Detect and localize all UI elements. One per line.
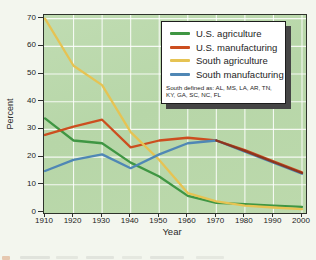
legend-item: U.S. manufacturing — [162, 41, 285, 55]
y-tick-label: 40 — [14, 96, 36, 105]
line-swatch-icon — [170, 73, 190, 76]
y-tick-label: 20 — [14, 151, 36, 160]
legend: U.S. agriculture U.S. manufacturing Sout… — [161, 21, 286, 104]
y-tick-label: 10 — [14, 179, 36, 188]
y-tick — [38, 17, 43, 18]
x-tick-label: 1970 — [201, 216, 229, 225]
x-tick-label: 1910 — [30, 216, 58, 225]
legend-label: South manufacturing — [196, 69, 284, 80]
legend-note-line2: KY, GA, SC, NC, FL — [166, 91, 282, 98]
cropped-caption-fragments — [0, 253, 316, 260]
legend-item: U.S. agriculture — [162, 27, 285, 41]
caption-fragment — [56, 256, 78, 259]
legend-note-line1: South defined as: AL, MS, LA, AR, TN, — [166, 84, 282, 91]
legend-note: South defined as: AL, MS, LA, AR, TN, KY… — [162, 81, 285, 99]
y-tick-label: 30 — [14, 123, 36, 132]
legend-label: South agriculture — [196, 55, 268, 66]
y-tick-label: 50 — [14, 68, 36, 77]
caption-fragment — [150, 256, 184, 259]
y-tick — [38, 211, 43, 212]
x-axis-title: Year — [152, 226, 192, 237]
x-tick-label: 1940 — [116, 216, 144, 225]
caption-fragment — [86, 256, 114, 259]
legend-item: South manufacturing — [162, 68, 285, 82]
x-tick-label: 1930 — [87, 216, 115, 225]
y-tick-label: 70 — [14, 13, 36, 22]
line-swatch-icon — [170, 46, 190, 49]
x-tick-label: 1950 — [144, 216, 172, 225]
x-tick-label: 1980 — [230, 216, 258, 225]
y-tick — [38, 45, 43, 46]
x-tick-label: 1920 — [59, 216, 87, 225]
y-tick-label: 60 — [14, 40, 36, 49]
legend-item: South agriculture — [162, 54, 285, 68]
x-tick-label: 1960 — [173, 216, 201, 225]
caption-fragment — [20, 256, 50, 259]
y-tick — [38, 128, 43, 129]
x-tick-label: 2000 — [287, 216, 315, 225]
x-tick-label: 1990 — [258, 216, 286, 225]
y-tick-label: 0 — [14, 207, 36, 216]
y-tick — [38, 183, 43, 184]
caption-fragment — [196, 256, 224, 259]
y-tick — [38, 73, 43, 74]
y-tick — [38, 100, 43, 101]
legend-label: U.S. manufacturing — [196, 42, 277, 53]
figure: Percent Year 010203040506070 19101920193… — [0, 0, 316, 260]
line-swatch-icon — [170, 59, 190, 62]
caption-fragment — [122, 256, 142, 259]
line-swatch-icon — [170, 32, 190, 35]
caption-fragment — [2, 256, 10, 260]
legend-label: U.S. agriculture — [196, 28, 261, 39]
y-tick — [38, 156, 43, 157]
